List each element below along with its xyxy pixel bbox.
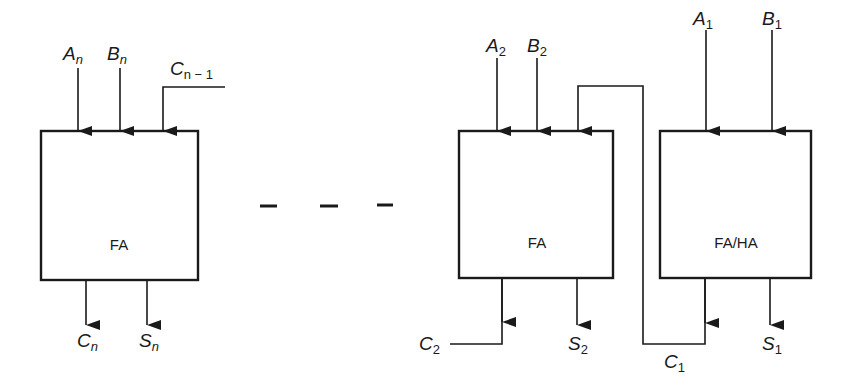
fa-block-n <box>41 131 198 280</box>
fa-block-n-label: FA <box>110 236 128 253</box>
c1-label: C1 <box>664 351 685 375</box>
fa-ha-block-1 <box>660 131 811 278</box>
cn-minus-1-input-arrow <box>163 87 225 131</box>
b1-label: B1 <box>762 8 782 32</box>
stage-n-group: FA An Bn Cn − 1 Cn Sn <box>41 43 225 354</box>
an-label: An <box>62 43 83 67</box>
stage-2-group: FA A2 B2 C2 S2 <box>419 35 613 357</box>
s2-label: S2 <box>568 333 588 357</box>
cn-label: Cn <box>77 330 98 354</box>
c2-label: C2 <box>419 333 440 357</box>
b2-label: B2 <box>527 35 547 59</box>
cn-minus-1-label: Cn − 1 <box>170 58 213 82</box>
bn-label: Bn <box>107 43 127 67</box>
sn-label: Sn <box>139 330 159 354</box>
fa-block-2 <box>459 131 613 278</box>
a2-label: A2 <box>485 35 506 59</box>
ellipsis-dashes <box>260 205 393 206</box>
c2-output-wire <box>450 278 502 344</box>
s1-label: S1 <box>762 333 782 357</box>
fa-ha-block-1-label: FA/HA <box>714 234 757 251</box>
a1-label: A1 <box>692 8 713 32</box>
fa-block-2-label: FA <box>528 234 546 251</box>
ripple-carry-adder-diagram: FA An Bn Cn − 1 Cn Sn <box>0 0 854 387</box>
stage-1-group: FA/HA A1 B1 S1 <box>660 8 811 357</box>
